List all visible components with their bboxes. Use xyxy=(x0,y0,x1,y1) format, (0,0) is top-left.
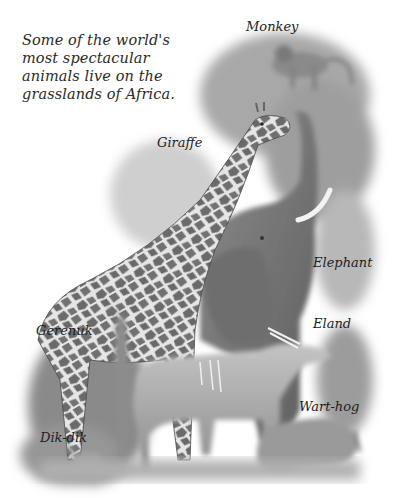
label-dikdik: Dik-dik xyxy=(40,430,87,445)
intro-caption: Some of the world's most spectacular ani… xyxy=(22,31,202,103)
label-eland: Eland xyxy=(313,316,351,331)
label-warthog: Wart-hog xyxy=(299,399,359,414)
ground-grass xyxy=(40,460,360,480)
label-giraffe: Giraffe xyxy=(157,135,202,150)
label-gerenuk: Gerenuk xyxy=(36,323,93,338)
label-elephant: Elephant xyxy=(313,255,372,270)
illustration: Some of the world's most spectacular ani… xyxy=(0,0,394,498)
label-monkey: Monkey xyxy=(246,19,298,34)
